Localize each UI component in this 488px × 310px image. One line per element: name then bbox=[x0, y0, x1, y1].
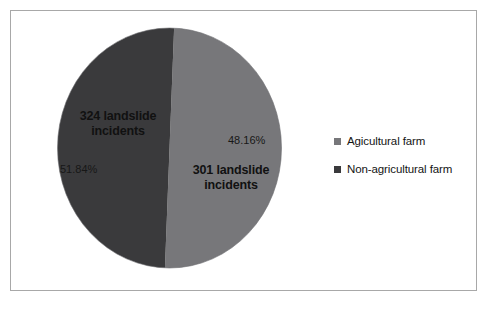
pie-label-line1: 301 landslide bbox=[193, 163, 270, 177]
pie-label-line1: 324 landslide bbox=[80, 109, 157, 123]
legend-item-label: Agicultural farm bbox=[347, 135, 425, 147]
legend-swatch-icon bbox=[334, 138, 341, 145]
pie-slice-agicultural-farm[interactable] bbox=[165, 18, 299, 280]
legend-item-non-agricultural-farm[interactable]: Non-agricultural farm bbox=[334, 159, 480, 179]
pie-label-agicultural-percent: 48.16% bbox=[228, 134, 288, 147]
pie-graphic bbox=[48, 18, 298, 280]
pie-chart: 324 landslide incidents 51.84% 48.16% 30… bbox=[0, 0, 488, 310]
pie-label-line2: incidents bbox=[91, 124, 145, 138]
pie-label-non-agricultural-percent: 51.84% bbox=[60, 163, 124, 176]
figure-canvas: 324 landslide incidents 51.84% 48.16% 30… bbox=[0, 0, 488, 310]
chart-legend: Agicultural farm Non-agricultural farm bbox=[334, 131, 480, 187]
legend-item-agicultural-farm[interactable]: Agicultural farm bbox=[334, 131, 480, 151]
pie-label-line2: incidents bbox=[204, 178, 258, 192]
pie-label-non-agricultural-count: 324 landslide incidents bbox=[62, 109, 174, 140]
legend-swatch-icon bbox=[334, 166, 341, 173]
pie-slice-non-agricultural-farm[interactable] bbox=[48, 18, 175, 280]
pie-label-agicultural-count: 301 landslide incidents bbox=[175, 163, 287, 194]
legend-item-label: Non-agricultural farm bbox=[347, 163, 452, 175]
